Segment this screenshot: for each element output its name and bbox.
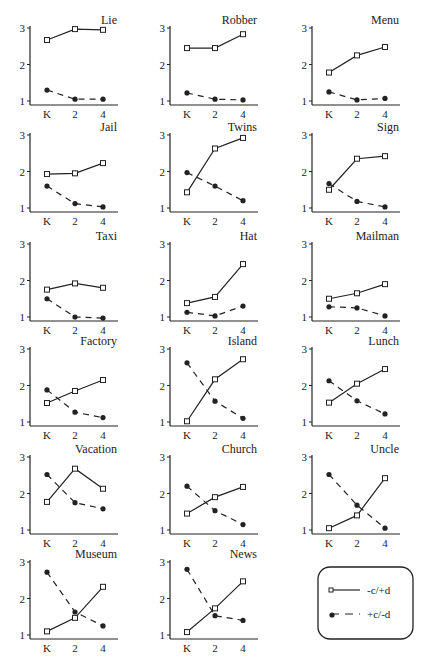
x-tick-label: K	[43, 537, 51, 549]
filled-circle-marker	[212, 313, 217, 318]
filled-circle-marker	[44, 87, 49, 92]
series-minus-c-plus-d	[329, 47, 385, 73]
y-tick-label: 1	[302, 524, 308, 536]
panel-title: Vacation	[75, 442, 117, 456]
open-square-marker	[241, 32, 246, 37]
y-tick-label: 1	[20, 311, 26, 323]
filled-circle-marker	[44, 184, 49, 189]
filled-circle-marker	[44, 387, 49, 392]
open-square-marker	[213, 377, 218, 382]
open-square-marker	[383, 154, 388, 159]
open-square-marker	[185, 190, 190, 195]
open-square-marker	[45, 172, 50, 177]
legend-label: -c/+d	[367, 584, 391, 596]
open-square-marker	[213, 606, 218, 611]
panel-lunch: 123K24Lunch	[302, 334, 401, 441]
open-square-marker	[101, 378, 106, 383]
filled-circle-marker	[326, 89, 331, 94]
y-tick-label: 3	[20, 343, 26, 355]
y-tick-label: 1	[160, 311, 166, 323]
panel-title: Robber	[222, 13, 257, 27]
panel-twins: 123K24Twins	[160, 120, 259, 227]
filled-circle-marker	[382, 204, 387, 209]
y-tick-label: 1	[302, 416, 308, 428]
open-square-marker	[73, 466, 78, 471]
open-square-marker	[213, 46, 218, 51]
filled-circle-marker	[382, 526, 387, 531]
x-tick-label: K	[183, 324, 191, 336]
x-tick-label: K	[183, 215, 191, 227]
y-tick-label: 1	[160, 202, 166, 214]
open-square-marker	[241, 135, 246, 140]
y-tick-label: 2	[160, 166, 166, 178]
panel-title: Uncle	[370, 442, 399, 456]
y-tick-label: 3	[160, 22, 166, 34]
open-square-marker	[185, 419, 190, 424]
filled-circle-marker	[382, 313, 387, 318]
filled-circle-marker	[240, 198, 245, 203]
x-tick-label: 2	[212, 537, 218, 549]
series-plus-c-minus-d	[187, 486, 243, 524]
filled-circle-marker	[212, 399, 217, 404]
y-tick-label: 2	[20, 275, 26, 287]
y-tick-label: 1	[160, 524, 166, 536]
x-tick-label: 2	[72, 215, 78, 227]
open-square-marker	[327, 70, 332, 75]
panel-title: Island	[228, 334, 257, 348]
y-tick-label: 3	[160, 129, 166, 141]
filled-circle-marker	[212, 184, 217, 189]
open-square-marker	[241, 262, 246, 267]
x-tick-label: 4	[240, 429, 246, 441]
filled-circle-marker	[44, 296, 49, 301]
y-tick-label: 3	[302, 238, 308, 250]
open-square-marker	[327, 526, 332, 531]
series-plus-c-minus-d	[187, 569, 243, 620]
filled-circle-marker	[240, 416, 245, 421]
x-tick-label: 2	[212, 108, 218, 120]
open-square-marker	[383, 476, 388, 481]
y-tick-label: 3	[160, 343, 166, 355]
filled-circle-marker	[72, 201, 77, 206]
panel-jail: 123K24Jail	[20, 120, 119, 227]
y-tick-label: 2	[20, 593, 26, 605]
open-square-marker	[185, 301, 190, 306]
small-multiples-figure: 123K24Lie123K24Robber123K24Menu123K24Jai…	[0, 0, 427, 665]
open-square-marker	[73, 281, 78, 286]
open-square-marker	[355, 381, 360, 386]
y-tick-label: 2	[302, 380, 308, 392]
x-tick-label: K	[183, 429, 191, 441]
open-square-marker	[45, 401, 50, 406]
y-tick-label: 1	[160, 416, 166, 428]
panel-title: Menu	[371, 13, 399, 27]
legend-label: +c/-d	[367, 608, 391, 620]
y-tick-label: 2	[302, 166, 308, 178]
filled-circle-marker	[212, 97, 217, 102]
panel-title: Lie	[101, 13, 117, 27]
open-square-marker	[241, 579, 246, 584]
filled-circle-marker	[100, 97, 105, 102]
open-square-marker	[213, 294, 218, 299]
open-square-marker	[185, 630, 190, 635]
x-tick-label: 2	[354, 108, 360, 120]
open-square-marker	[355, 156, 360, 161]
y-tick-label: 3	[302, 451, 308, 463]
x-tick-label: K	[325, 215, 333, 227]
x-tick-label: 2	[212, 324, 218, 336]
x-tick-label: 2	[72, 429, 78, 441]
x-tick-label: 2	[354, 537, 360, 549]
filled-circle-marker	[100, 315, 105, 320]
x-tick-label: 2	[212, 642, 218, 654]
y-tick-label: 2	[20, 166, 26, 178]
filled-circle-marker	[240, 97, 245, 102]
y-tick-label: 2	[160, 488, 166, 500]
x-tick-label: 4	[382, 429, 388, 441]
open-square-marker	[355, 53, 360, 58]
panel-title: Museum	[75, 547, 118, 561]
x-tick-label: 2	[354, 215, 360, 227]
filled-circle-marker	[326, 378, 331, 383]
x-tick-label: 4	[382, 537, 388, 549]
filled-circle-marker	[72, 314, 77, 319]
filled-circle-icon	[329, 612, 334, 617]
y-tick-label: 2	[302, 488, 308, 500]
filled-circle-marker	[72, 500, 77, 505]
